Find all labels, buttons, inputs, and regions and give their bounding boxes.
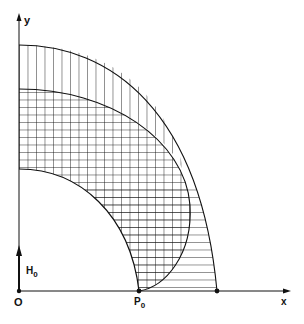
x-axis-label: x	[281, 296, 287, 307]
y-axis-label: y	[24, 14, 31, 26]
origin-point	[17, 289, 21, 293]
origin-label: O	[14, 296, 23, 308]
y-axis-arrow-icon	[17, 13, 22, 21]
outer-intercept-point	[215, 289, 220, 294]
h0-label-main: H	[26, 265, 33, 276]
hatched-regions-diagram: y x O H0 P0	[0, 0, 304, 324]
p0-label-sub: 0	[141, 301, 146, 310]
h0-label-sub: 0	[33, 270, 38, 279]
p0-point	[137, 289, 142, 294]
p0-label: P0	[134, 296, 146, 310]
x-axis-arrow-icon	[283, 289, 291, 294]
